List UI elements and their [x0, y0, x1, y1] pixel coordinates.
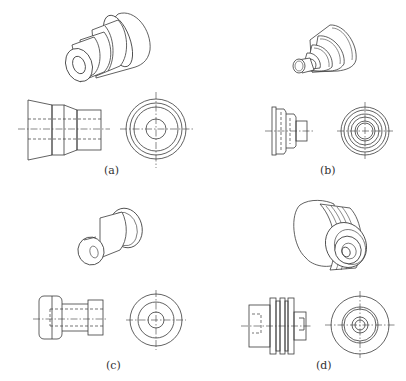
- caption-d: (d): [316, 359, 332, 372]
- panel-b-front-view: [265, 107, 313, 155]
- panel-c: [33, 205, 186, 350]
- panel-a: [18, 12, 194, 168]
- caption-a: (a): [104, 164, 119, 177]
- caption-b: (b): [320, 164, 336, 177]
- technical-drawing-figure: [0, 0, 406, 381]
- panel-a-side-view: [120, 92, 194, 168]
- panel-c-isometric-view: [75, 205, 147, 268]
- caption-c: (c): [106, 359, 121, 372]
- panel-a-isometric-view: [61, 12, 150, 86]
- panel-a-front-view: [18, 100, 110, 160]
- panel-d-front-view: [241, 298, 312, 354]
- panel-d-side-view: [325, 291, 396, 358]
- panel-b-isometric-view: [293, 25, 356, 73]
- panel-d: [241, 200, 396, 358]
- panel-b-side-view: [337, 102, 393, 160]
- panel-b: [265, 25, 393, 160]
- panel-c-front-view: [33, 296, 108, 339]
- panel-c-side-view: [126, 290, 186, 350]
- panel-d-isometric-view: [294, 200, 374, 274]
